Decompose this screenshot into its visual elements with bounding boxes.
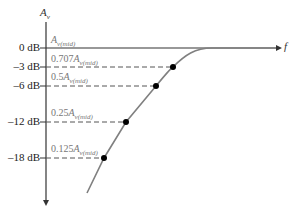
gain-label-12db: 0.25Av(mid) bbox=[51, 107, 93, 121]
db-label-12: –12 dB bbox=[0, 115, 40, 127]
x-axis-arrow-icon bbox=[276, 45, 282, 51]
frequency-response-diagram: Av f 0 dB –3 dB –6 dB –12 dB –18 dB Av(m… bbox=[0, 0, 292, 211]
response-curve bbox=[87, 48, 276, 193]
gain-label-18db: 0.125Av(mid) bbox=[51, 143, 98, 157]
gain-label-3db: 0.707Av(mid) bbox=[51, 53, 98, 67]
response-plot bbox=[0, 0, 292, 211]
db-label-3: –3 dB bbox=[0, 60, 40, 72]
dot-3db bbox=[170, 64, 176, 70]
dot-12db bbox=[123, 119, 129, 125]
db-label-6: –6 dB bbox=[0, 79, 40, 91]
db-label-18: –18 dB bbox=[0, 151, 40, 163]
x-axis-label: f bbox=[284, 40, 287, 52]
dot-18db bbox=[101, 155, 107, 161]
y-axis-label: Av bbox=[40, 6, 50, 21]
gain-label-0db: Av(mid) bbox=[51, 34, 75, 48]
dot-6db bbox=[153, 83, 159, 89]
db-label-0: 0 dB bbox=[0, 41, 40, 53]
gain-label-6db: 0.5Av(mid) bbox=[51, 71, 88, 85]
y-axis-arrow-icon bbox=[43, 200, 49, 206]
